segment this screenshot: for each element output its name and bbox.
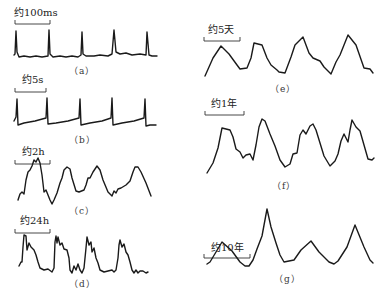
scale-label-e: 约5天 — [208, 25, 234, 35]
caption-a: （a） — [69, 67, 95, 76]
scale-label-d: 约24h — [20, 216, 49, 226]
waveform-g — [204, 209, 373, 266]
scale-label-a: 约100ms — [14, 8, 58, 18]
waveforms-canvas — [0, 0, 381, 297]
caption-e: （e） — [270, 85, 296, 94]
waveform-c — [15, 158, 151, 204]
waveform-e — [204, 35, 373, 76]
scale-label-b: 约5s — [22, 75, 44, 85]
waveform-a — [14, 20, 157, 57]
scale-label-c: 约2h — [22, 147, 45, 157]
caption-b: （b） — [69, 136, 96, 145]
waveform-d — [15, 229, 148, 273]
caption-g: （g） — [274, 275, 301, 284]
caption-c: （c） — [69, 207, 95, 216]
caption-f: （f） — [272, 182, 296, 191]
waveform-b — [14, 88, 156, 126]
scale-label-f: 约1年 — [211, 99, 237, 109]
caption-d: （d） — [69, 280, 96, 289]
waveform-f — [205, 111, 374, 173]
scale-label-g: 约10年 — [211, 243, 244, 253]
